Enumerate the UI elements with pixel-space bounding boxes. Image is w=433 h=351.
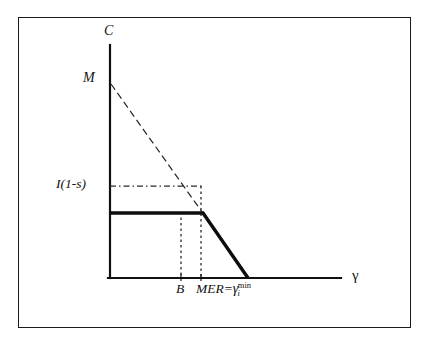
i-one-minus-s-label: I(1-s) xyxy=(56,177,86,191)
mer-superscript: min xyxy=(238,280,251,290)
figure-root: C M I(1-s) γ B MER=γimin xyxy=(0,0,433,351)
mer-prefix-text: MER= xyxy=(196,281,233,296)
horizontal-axis-label: γ xyxy=(352,268,359,283)
m-intercept-label: M xyxy=(83,71,95,85)
mer-tick-label: MER=γimin xyxy=(196,281,251,297)
b-tick-label: B xyxy=(176,282,184,296)
cost-schedule-curve xyxy=(110,213,248,278)
vertical-axis-label: C xyxy=(104,24,113,38)
